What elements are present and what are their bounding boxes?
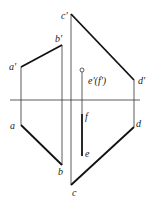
label-a-prime: a' (9, 61, 17, 72)
label-b: b (58, 166, 63, 177)
line-a-prime-b-prime (21, 45, 62, 67)
label-ef-prime: e'(f') (88, 75, 107, 87)
line-a-b (21, 125, 62, 165)
label-c: c (72, 187, 77, 198)
label-f: f (85, 111, 89, 122)
label-c-prime: c' (61, 10, 68, 21)
label-d: d (136, 118, 142, 129)
label-a: a (10, 120, 15, 131)
label-b-prime: b' (55, 33, 63, 44)
projection-diagram: a' b' c' d' e'(f') a b c d f e (0, 0, 155, 205)
ef-prime-point-icon (80, 68, 84, 72)
label-d-prime: d' (138, 75, 146, 86)
line-c-d (71, 127, 134, 185)
label-e: e (85, 148, 90, 159)
